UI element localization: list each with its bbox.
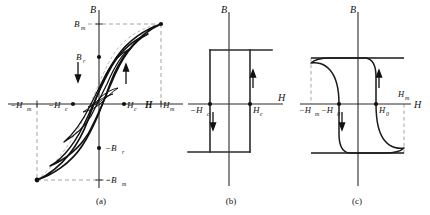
label-hm-a-sub: m <box>170 106 175 112</box>
point-h0-c <box>374 102 378 106</box>
panel-b-y-axis-label: B <box>221 4 227 15</box>
point-bm-hm <box>159 22 163 26</box>
label-bm-a-main: B <box>74 19 80 29</box>
label-neg-hc-b-main: −H <box>190 105 203 115</box>
label-hc-a-main: H <box>126 100 134 110</box>
label-neg-hc-a-sub: c <box>65 106 68 112</box>
point-neg-hc-b <box>208 102 212 106</box>
label-neg-h0-c-sub: 0 <box>337 111 340 117</box>
label-neg-hm-c-main: −H <box>299 105 312 115</box>
label-neg-hm-a-sub: m <box>27 106 32 112</box>
label-h0-c-main: H <box>378 105 386 115</box>
point-neg-br <box>97 146 101 150</box>
panel-b-x-axis-label: H <box>277 92 286 103</box>
label-br-a-main: B <box>76 52 82 62</box>
point-neg-h0-c <box>337 102 341 106</box>
label-hc-b-main: H <box>252 105 260 115</box>
label-hm-a-main: H <box>162 100 170 110</box>
label-neg-hm-a-main: −H <box>10 100 23 110</box>
label-h0-c-sub: 0 <box>386 111 389 117</box>
label-hc-b-sub: c <box>260 111 263 117</box>
panel-b-caption: (b) <box>226 196 237 206</box>
label-hm-c-sub: m <box>405 95 410 101</box>
point-hc <box>122 102 126 106</box>
label-neg-bm-a-main: −B <box>105 175 117 185</box>
point-neg-hc <box>71 102 75 106</box>
label-neg-br-a-main: −B <box>105 143 117 153</box>
label-neg-hc-a-main: −H <box>48 100 61 110</box>
label-neg-hc-b-sub: c <box>207 111 210 117</box>
label-hm-c-main: H <box>397 89 405 99</box>
label-neg-hm-c-sub: m <box>315 111 320 117</box>
point-neg-bm-neg-hm <box>35 178 40 183</box>
label-hc-a-sub: c <box>134 106 137 112</box>
panel-c-x-axis-label: H <box>413 99 422 110</box>
panel-c-y-axis-label: B <box>350 4 356 15</box>
panel-a-caption: (a) <box>96 196 106 206</box>
hysteresis-figure: B −H m −H c H c H H m B m B r −B r <box>0 0 430 215</box>
point-hc-b <box>248 102 252 106</box>
label-bm-a-sub: m <box>81 25 86 31</box>
panel-a-x-axis-label: H <box>144 100 153 110</box>
panel-c-caption: (c) <box>352 196 362 206</box>
panel-a-y-axis-label: B <box>90 4 96 15</box>
label-neg-bm-a-sub: m <box>122 181 127 187</box>
point-br <box>97 55 101 59</box>
label-neg-h0-c-main: −H <box>321 105 334 115</box>
figure-canvas: B −H m −H c H c H H m B m B r −B r <box>0 0 430 215</box>
